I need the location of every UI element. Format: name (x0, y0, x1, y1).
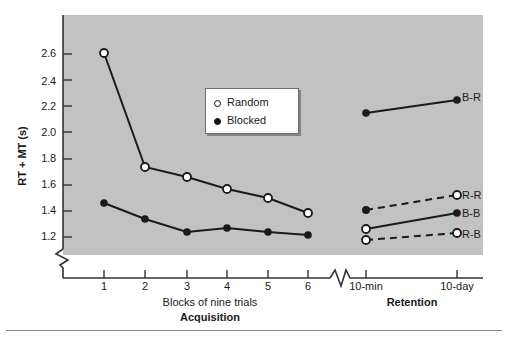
x-axis-break-icon (330, 270, 483, 286)
chart-svg (0, 0, 508, 339)
chart-figure: 1.2 1.4 1.6 1.8 2.0 2.2 2.4 2.6 RT + MT … (0, 0, 508, 339)
x-tick-marks-acquisition (104, 270, 308, 278)
footer-divider (6, 330, 502, 331)
y-tick-marks (63, 54, 72, 237)
series-line-blocked-acquisition (104, 203, 308, 235)
series-line-b-b (366, 213, 457, 229)
series-markers-r-r (362, 191, 461, 214)
x-tick-marks-retention (366, 270, 457, 278)
series-line-r-b (366, 233, 457, 240)
series-line-b-r (366, 100, 457, 113)
series-line-r-r (366, 195, 457, 210)
series-markers-r-b (362, 229, 461, 244)
series-line-random-acquisition (104, 53, 308, 213)
y-axis-break-icon (56, 249, 68, 278)
